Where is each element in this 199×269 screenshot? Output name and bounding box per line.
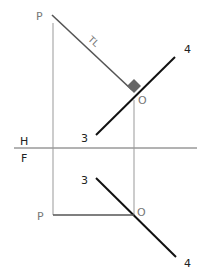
right-angle-marker <box>127 79 141 93</box>
front-line-3-4 <box>96 178 176 257</box>
label-top-o: O <box>138 94 147 107</box>
label-top-4: 4 <box>184 43 191 56</box>
label-fold-h: H <box>20 135 28 148</box>
projection-diagram: P TL 4 O 3 H F 3 P O 4 <box>0 0 199 269</box>
top-line-3-4 <box>96 57 175 135</box>
label-front-o: O <box>137 206 146 219</box>
label-front-p: P <box>37 210 44 223</box>
label-top-p: P <box>36 10 43 23</box>
label-front-3: 3 <box>81 174 88 187</box>
label-fold-f: F <box>21 152 27 165</box>
label-front-4: 4 <box>184 257 191 269</box>
true-length-line-po <box>52 15 132 90</box>
label-top-3: 3 <box>81 132 88 145</box>
label-true-length: TL <box>86 33 101 48</box>
